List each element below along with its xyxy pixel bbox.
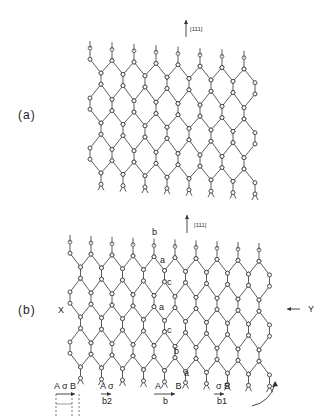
burgers-label-2-sub: b2 bbox=[102, 396, 112, 406]
stacking-label: a bbox=[184, 368, 189, 378]
panel-b-direction-label: [111] bbox=[194, 222, 206, 228]
panel-a-label: (a) bbox=[18, 108, 36, 122]
burgers-label-3-sub: b bbox=[163, 396, 168, 406]
stacking-label: a bbox=[160, 255, 165, 265]
stacking-label: c bbox=[167, 325, 172, 335]
stacking-label: c bbox=[167, 277, 172, 287]
stacking-label: b bbox=[174, 346, 179, 356]
lattice-drawing bbox=[0, 0, 329, 416]
burgers-label-4-sub: b1 bbox=[217, 396, 227, 406]
burgers-label-2: A σ bbox=[100, 381, 114, 391]
burgers-label-3: A B bbox=[155, 381, 182, 391]
burgers-label-4: σ B bbox=[216, 381, 230, 391]
stacking-label: b bbox=[152, 227, 157, 237]
x-marker: X bbox=[58, 305, 64, 315]
stacking-label: a bbox=[159, 302, 164, 312]
y-marker: Y bbox=[308, 304, 314, 314]
burgers-label-1: A σ B bbox=[54, 381, 76, 391]
panel-b-label: (b) bbox=[18, 303, 36, 317]
panel-a-direction-label: [111] bbox=[190, 26, 202, 32]
